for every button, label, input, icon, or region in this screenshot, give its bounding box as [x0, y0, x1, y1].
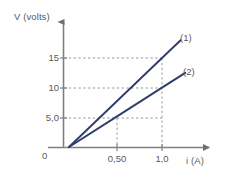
x-tick-label-0-50: 0,50	[97, 153, 137, 164]
y-tick-label-15: 15	[33, 52, 59, 63]
y-tick-label-5: 5,0	[33, 112, 59, 123]
horizontal-gridlines	[64, 58, 162, 118]
x-tick-label-1-0: 1,0	[142, 153, 182, 164]
series-line-2	[69, 73, 185, 147]
origin-label: 0	[42, 150, 47, 161]
series-label-1: (1)	[180, 32, 192, 43]
y-tick-label-10: 10	[33, 82, 59, 93]
series-line-1	[69, 40, 181, 147]
x-axis-title: i (A)	[186, 155, 204, 166]
chart-figure: V (volts) i (A) 0 5,0 10 15 0,50 1,0 (1)…	[0, 0, 231, 175]
data-series	[69, 40, 185, 147]
series-label-2: (2)	[183, 66, 195, 77]
y-axis-title: V (volts)	[14, 11, 50, 22]
